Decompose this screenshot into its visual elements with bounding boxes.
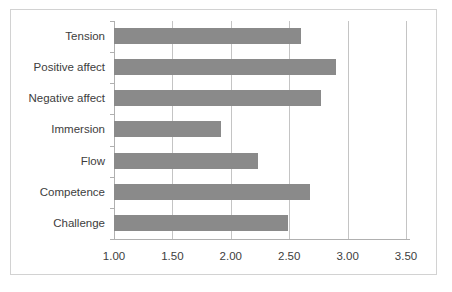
bar-competence: [114, 184, 310, 200]
x-axis-baseline: [110, 239, 410, 240]
bar-row: Challenge: [114, 208, 406, 239]
bar-immersion: [114, 121, 221, 137]
x-axis-tick-labels: 1.001.502.002.503.003.50: [114, 250, 406, 266]
bar-negative-affect: [114, 90, 321, 106]
x-tick-label-1-50: 1.50: [161, 250, 183, 262]
bar-positive-affect: [114, 59, 336, 75]
category-tick: [110, 83, 114, 84]
category-label-flow: Flow: [81, 153, 105, 169]
bar-row: Tension: [114, 21, 406, 52]
category-label-positive-affect: Positive affect: [34, 59, 105, 75]
chart-figure: TensionPositive affectNegative affectImm…: [0, 0, 452, 292]
category-tick: [110, 177, 114, 178]
category-tick: [110, 21, 114, 22]
x-tick-label-3-00: 3.00: [336, 250, 358, 262]
bar-row: Flow: [114, 146, 406, 177]
x-tick-label-3-50: 3.50: [395, 250, 417, 262]
gridline-3-50: [406, 21, 407, 239]
x-tick-label-2-50: 2.50: [278, 250, 300, 262]
category-tick: [110, 146, 114, 147]
bar-tension: [114, 28, 301, 44]
bar-row: Negative affect: [114, 83, 406, 114]
category-tick: [110, 114, 114, 115]
category-tick: [110, 52, 114, 53]
chart-frame: TensionPositive affectNegative affectImm…: [10, 9, 437, 275]
x-tick-label-2-00: 2.00: [220, 250, 242, 262]
category-tick: [110, 208, 114, 209]
category-label-tension: Tension: [65, 28, 105, 44]
category-label-competence: Competence: [40, 184, 105, 200]
x-tick-label-1-00: 1.00: [103, 250, 125, 262]
category-label-negative-affect: Negative affect: [28, 90, 105, 106]
bar-challenge: [114, 215, 288, 231]
bar-row: Positive affect: [114, 52, 406, 83]
category-label-immersion: Immersion: [51, 121, 105, 137]
category-label-challenge: Challenge: [53, 215, 105, 231]
bar-row: Competence: [114, 177, 406, 208]
bar-row: Immersion: [114, 114, 406, 145]
bar-flow: [114, 153, 258, 169]
plot-area: TensionPositive affectNegative affectImm…: [114, 21, 406, 239]
